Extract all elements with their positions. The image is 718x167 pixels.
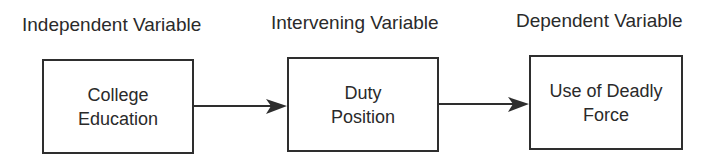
connector-arrows [0,0,718,167]
arrow-iv-to-mv [194,99,287,114]
arrow-mv-to-dv [439,97,529,112]
